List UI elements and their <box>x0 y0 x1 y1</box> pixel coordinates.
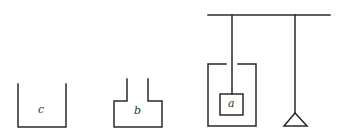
diagram-svg <box>0 0 345 140</box>
triangle-weight <box>284 113 307 126</box>
container-b <box>114 79 162 127</box>
label-b: b <box>134 104 141 117</box>
diagram-canvas: c b a <box>0 0 345 140</box>
label-a: a <box>228 97 235 110</box>
label-c: c <box>38 103 44 116</box>
